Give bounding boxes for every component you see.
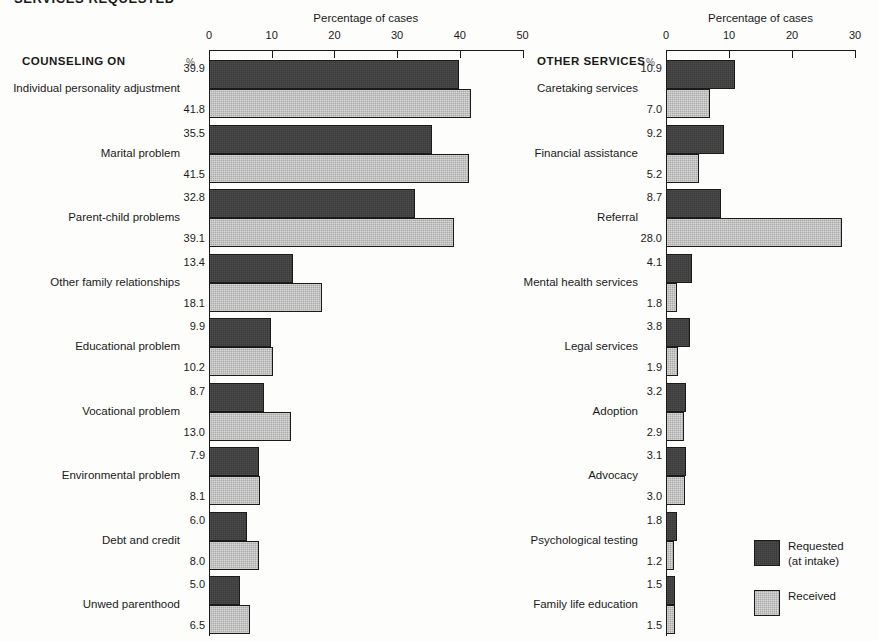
bar-received xyxy=(666,412,684,441)
bar-received xyxy=(209,283,322,312)
bar-value-label: 3.2 xyxy=(647,385,662,397)
bar-value-label: 28.0 xyxy=(641,232,662,244)
bar-value-label: 5.0 xyxy=(190,578,205,590)
bar-received xyxy=(666,605,675,634)
bar-requested xyxy=(666,447,686,476)
bar-value-label: 39.1 xyxy=(184,232,205,244)
bar-value-label: 9.2 xyxy=(647,127,662,139)
bar-received xyxy=(209,218,454,247)
figure-root: SERVICES REQUESTED Percentage of cases01… xyxy=(0,0,878,641)
bar-received xyxy=(209,412,291,441)
bar-requested xyxy=(666,125,724,154)
axis-title-left: Percentage of cases xyxy=(313,12,418,24)
bar-value-label: 10.2 xyxy=(184,361,205,373)
axis-title-right: Percentage of cases xyxy=(708,12,813,24)
category-label: Caretaking services xyxy=(537,82,638,94)
bar-value-label: 6.5 xyxy=(190,619,205,631)
bar-received xyxy=(666,218,842,247)
category-label: Legal services xyxy=(564,340,638,352)
bar-value-label: 32.8 xyxy=(184,191,205,203)
category-label: Environmental problem xyxy=(62,469,180,481)
x-axis-tick xyxy=(855,50,856,58)
x-tick-label: 20 xyxy=(328,29,340,41)
x-tick-label: 10 xyxy=(723,29,735,41)
bar-value-label: 9.9 xyxy=(190,320,205,332)
bar-requested xyxy=(209,318,271,347)
bar-received xyxy=(209,541,259,570)
bar-requested xyxy=(666,189,721,218)
bar-received xyxy=(666,89,710,118)
category-label: Educational problem xyxy=(75,340,180,352)
panel-heading-left: COUNSELING ON xyxy=(22,55,126,67)
bar-value-label: 8.1 xyxy=(190,490,205,502)
category-label: Mental health services xyxy=(524,276,638,288)
x-axis-tick xyxy=(334,50,335,58)
bar-value-label: 3.0 xyxy=(647,490,662,502)
bar-value-label: 8.7 xyxy=(190,385,205,397)
bar-requested xyxy=(209,576,240,605)
bar-value-label: 4.1 xyxy=(647,256,662,268)
bar-value-label: 8.7 xyxy=(647,191,662,203)
legend-swatch-received xyxy=(754,590,780,616)
legend-item-received: Received xyxy=(754,590,864,630)
bar-value-label: 1.5 xyxy=(647,578,662,590)
bar-received xyxy=(209,154,469,183)
bar-value-label: 2.9 xyxy=(647,426,662,438)
category-label: Financial assistance xyxy=(534,147,638,159)
category-label: Referral xyxy=(597,211,638,223)
bar-received xyxy=(209,89,471,118)
x-axis-tick xyxy=(460,50,461,58)
bar-received xyxy=(666,541,674,570)
bar-value-label: 7.0 xyxy=(647,103,662,115)
x-tick-label: 0 xyxy=(663,29,669,41)
bar-value-label: 41.8 xyxy=(184,103,205,115)
bar-value-label: 35.5 xyxy=(184,127,205,139)
bar-value-label: 10.9 xyxy=(641,62,662,74)
legend-swatch-requested xyxy=(754,540,780,566)
bar-received xyxy=(666,476,685,505)
legend-sublabel-requested: (at intake) xyxy=(788,555,839,567)
legend-label-received: Received xyxy=(788,590,836,602)
legend-label-requested: Requested xyxy=(788,540,844,552)
bar-value-label: 1.9 xyxy=(647,361,662,373)
x-axis-tick xyxy=(792,50,793,58)
bar-requested xyxy=(666,383,686,412)
category-label: Vocational problem xyxy=(82,405,180,417)
x-axis-line xyxy=(209,50,523,51)
x-axis-tick xyxy=(729,50,730,58)
bar-value-label: 8.0 xyxy=(190,555,205,567)
category-label: Adoption xyxy=(593,405,638,417)
bar-requested xyxy=(666,60,735,89)
category-label: Psychological testing xyxy=(531,534,638,546)
category-label: Individual personality adjustment xyxy=(13,82,180,94)
bar-value-label: 1.5 xyxy=(647,619,662,631)
bar-requested xyxy=(666,512,677,541)
bar-value-label: 39.9 xyxy=(184,62,205,74)
category-label: Parent-child problems xyxy=(68,211,180,223)
category-label: Unwed parenthood xyxy=(83,598,180,610)
bar-requested xyxy=(209,189,415,218)
category-label: Other family relationships xyxy=(50,276,180,288)
category-label: Advocacy xyxy=(588,469,638,481)
bar-value-label: 5.2 xyxy=(647,168,662,180)
bar-value-label: 6.0 xyxy=(190,514,205,526)
bar-requested xyxy=(209,125,432,154)
bar-value-label: 13.0 xyxy=(184,426,205,438)
bar-received xyxy=(209,347,273,376)
x-tick-label: 10 xyxy=(266,29,278,41)
bar-value-label: 3.8 xyxy=(647,320,662,332)
bar-value-label: 7.9 xyxy=(190,449,205,461)
bar-requested xyxy=(209,254,293,283)
panel-heading-right: OTHER SERVICES xyxy=(537,55,645,67)
bar-requested xyxy=(666,576,675,605)
bar-value-label: 1.8 xyxy=(647,514,662,526)
chart-panel-counseling: Percentage of cases01020304050COUNSELING… xyxy=(0,0,520,641)
bar-requested xyxy=(666,318,690,347)
x-axis-tick xyxy=(397,50,398,58)
bar-received xyxy=(209,476,260,505)
bar-requested xyxy=(209,60,459,89)
bar-received xyxy=(666,154,699,183)
bar-value-label: 3.1 xyxy=(647,449,662,461)
bar-value-label: 13.4 xyxy=(184,256,205,268)
x-tick-label: 20 xyxy=(786,29,798,41)
